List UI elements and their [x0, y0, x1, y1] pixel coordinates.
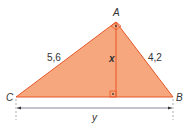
vertex-label-c: C	[6, 92, 14, 103]
triangle-diagram: A C B 5,6 4,2 x y	[0, 0, 188, 126]
base-label-y: y	[91, 112, 98, 123]
vertex-label-a: A	[112, 7, 120, 18]
side-label-ca: 5,6	[47, 52, 61, 63]
altitude-label-x: x	[108, 53, 115, 64]
dimension-line-y	[17, 107, 172, 110]
side-label-ab: 4,2	[148, 52, 162, 63]
vertex-label-b: B	[176, 92, 183, 103]
